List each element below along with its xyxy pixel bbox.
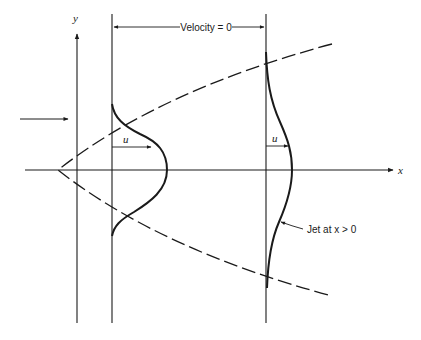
jet-annotation: Jet at x > 0 <box>281 222 357 235</box>
u-label-near: u <box>123 133 129 145</box>
velocity-zero-dimension: Velocity = 0 <box>114 22 264 33</box>
x-axis: x <box>25 164 403 176</box>
jet-diagram: y x Velocity = 0 u u Jet at x > 0 <box>0 0 421 340</box>
u-label-far: u <box>272 132 278 144</box>
x-axis-label: x <box>397 164 403 176</box>
y-axis: y <box>72 12 78 323</box>
velocity-zero-label: Velocity = 0 <box>180 22 232 33</box>
jet-annotation-label: Jet at x > 0 <box>307 224 357 235</box>
y-axis-label: y <box>72 12 78 24</box>
